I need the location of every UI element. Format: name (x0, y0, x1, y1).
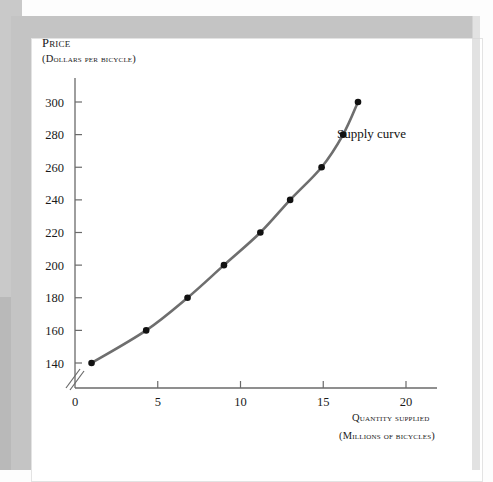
data-point-marker (184, 294, 191, 301)
y-tick-label: 200 (45, 259, 64, 273)
y-tick-label: 300 (45, 96, 64, 110)
data-point-marker (287, 197, 294, 204)
data-point-marker (221, 262, 228, 269)
x-tick-label: 0 (72, 395, 78, 409)
supply-curve-chart: 140160180200220240260280300 05101520 (0, 0, 493, 482)
y-tick-label: 140 (45, 357, 64, 371)
x-tick-label: 5 (155, 395, 161, 409)
y-tick-label: 280 (45, 128, 64, 142)
x-tick-label: 20 (400, 395, 413, 409)
axis-group (66, 78, 437, 390)
y-tick-label: 240 (45, 193, 64, 207)
x-tick-label: 10 (234, 395, 247, 409)
y-tick-group: 140160180200220240260280300 (45, 96, 82, 371)
data-point-marker (257, 229, 264, 236)
supply-curve-line (92, 102, 358, 363)
data-point-marker (340, 131, 347, 138)
y-tick-label: 260 (45, 161, 64, 175)
data-point-marker (318, 164, 325, 171)
y-tick-label: 160 (45, 324, 64, 338)
series-group (88, 99, 361, 367)
data-point-marker (143, 327, 150, 334)
data-point-marker (355, 99, 362, 106)
x-tick-label: 15 (317, 395, 330, 409)
y-tick-label: 180 (45, 291, 64, 305)
supply-curve-markers (88, 99, 361, 367)
data-point-marker (88, 360, 95, 367)
x-tick-group: 05101520 (72, 381, 412, 409)
y-tick-label: 220 (45, 226, 64, 240)
